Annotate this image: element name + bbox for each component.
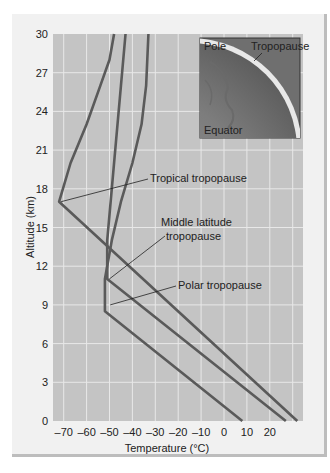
inset-tropopause-label: Tropopause xyxy=(251,40,309,52)
inset-equator-label: Equator xyxy=(204,124,243,136)
x-axis-label: Temperature (°C) xyxy=(125,442,209,454)
temperature-altitude-chart: Pole Tropopause Equator 0369121518212427… xyxy=(0,0,330,473)
x-tick-label: –20 xyxy=(169,426,187,438)
x-tick-label: 20 xyxy=(264,426,276,438)
y-tick-label: 21 xyxy=(36,144,48,156)
x-tick-label: –10 xyxy=(192,426,210,438)
x-tick-label: 10 xyxy=(241,426,253,438)
inset-pole-label: Pole xyxy=(204,40,226,52)
x-tick-label: –60 xyxy=(77,426,95,438)
y-axis-label: Altitude (km) xyxy=(24,196,36,258)
y-tick-label: 24 xyxy=(36,105,48,117)
annotation-tropical-tropopause: Tropical tropopause xyxy=(150,172,247,184)
y-tick-label: 3 xyxy=(42,376,48,388)
y-tick-label: 18 xyxy=(36,183,48,195)
x-tick-label: –30 xyxy=(146,426,164,438)
annotation-middle-latitude-1: Middle latitude xyxy=(161,216,232,228)
x-tick-label: 0 xyxy=(221,426,227,438)
y-tick-label: 27 xyxy=(36,67,48,79)
y-tick-label: 15 xyxy=(36,222,48,234)
y-tick-label: 9 xyxy=(42,299,48,311)
annotation-middle-latitude-2: tropopause xyxy=(166,230,221,242)
y-tick-label: 0 xyxy=(42,415,48,427)
x-tick-label: –40 xyxy=(123,426,141,438)
x-tick-label: –70 xyxy=(55,426,73,438)
x-tick-label: –50 xyxy=(100,426,118,438)
y-tick-label: 6 xyxy=(42,338,48,350)
y-tick-label: 12 xyxy=(36,260,48,272)
annotation-polar-tropopause: Polar tropopause xyxy=(178,279,262,291)
y-tick-label: 30 xyxy=(36,28,48,40)
